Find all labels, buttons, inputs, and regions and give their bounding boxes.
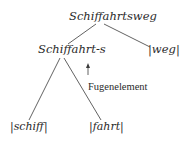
arrow-up-icon (86, 63, 90, 68)
edge-schiffahrt-s-to-schiff (29, 58, 60, 120)
schiff-node-label: |schiff| (10, 120, 48, 133)
weg-node-label: |weg| (148, 42, 180, 56)
schiffahrt-s-node-label: Schiffahrt-s (38, 42, 106, 56)
root-node-label: Schiffahrtsweg (69, 9, 157, 23)
fugenelement-annotation: Fugenelement (88, 81, 147, 92)
edge-root-to-weg (104, 24, 150, 47)
morphology-tree-diagram: Schiffahrtsweg Schiffahrt-s |weg| |schif… (0, 0, 184, 144)
edge-root-to-schiffahrt-s (68, 24, 96, 44)
fahrt-node-label: |fahrt| (89, 120, 124, 133)
